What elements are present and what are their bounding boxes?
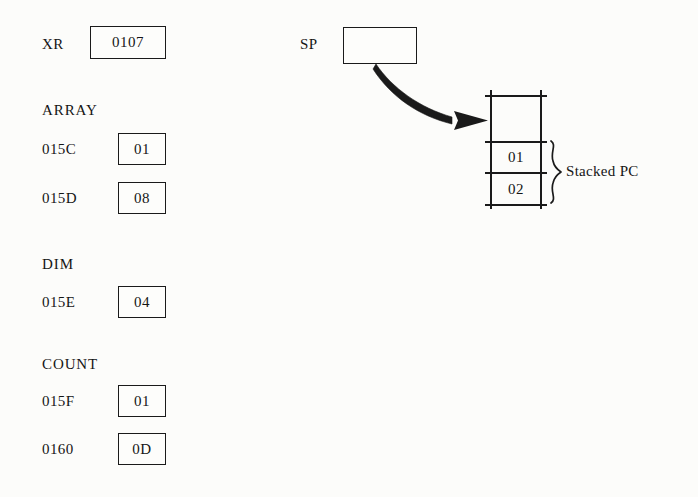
stack-right-wall	[540, 90, 542, 209]
section-label-dim: DIM	[42, 256, 74, 273]
register-value-box-xr: 0107	[90, 26, 166, 59]
stack-cell-2: 02	[492, 174, 540, 204]
stack-pointer-value-box	[343, 27, 417, 64]
sp-to-stack-arrow-shaft	[373, 64, 452, 124]
diagram-canvas: XR 0107 ARRAY 015C 01 015D 08 DIM 015E 0…	[0, 0, 698, 497]
stack-cell-1: 01	[492, 143, 540, 172]
memory-value-box-015f: 01	[118, 385, 166, 417]
memory-value-box-015d: 08	[118, 182, 166, 214]
memory-address-015c: 015C	[42, 141, 76, 158]
memory-address-015e: 015E	[42, 294, 75, 311]
sp-to-stack-arrowhead	[454, 111, 488, 130]
memory-address-015f: 015F	[42, 393, 74, 410]
section-label-count: COUNT	[42, 356, 98, 373]
memory-address-0160: 0160	[42, 441, 74, 458]
memory-value-box-015e: 04	[118, 286, 166, 318]
section-label-array: ARRAY	[42, 102, 98, 119]
memory-value-box-0160: 0D	[118, 433, 166, 465]
stacked-pc-brace	[551, 141, 561, 203]
register-label-xr: XR	[42, 36, 64, 53]
stack-rule-bottom	[485, 204, 547, 206]
stack-pointer-label: SP	[300, 36, 318, 53]
connector-overlay	[0, 0, 698, 497]
stack-cell-0	[492, 97, 540, 141]
memory-value-box-015c: 01	[118, 133, 166, 165]
memory-address-015d: 015D	[42, 190, 77, 207]
stacked-pc-annotation-label: Stacked PC	[566, 163, 639, 180]
